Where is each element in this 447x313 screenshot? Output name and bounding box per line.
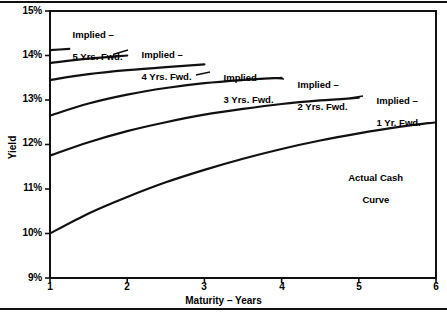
annotation-implied-5yr: Implied – 5 Yrs. Fwd. [62, 18, 123, 73]
yield-curve-figure: 15% 14% 13% 12% 11% 10% 9% 1 2 3 4 5 6 Y… [0, 0, 447, 313]
y-axis-title: Yield [7, 128, 18, 168]
x-axis-title: Maturity – Years [0, 295, 447, 306]
xtick-label-2: 2 [117, 281, 137, 292]
xtick-label-4: 4 [272, 281, 292, 292]
ytick-label-11: 11% [8, 182, 42, 193]
annotation-implied-1yr-line1: Implied – [377, 95, 418, 106]
annotation-implied-3yr: Implied – 3 Yrs. Fwd. [213, 61, 274, 116]
leader-line-1 [196, 72, 210, 75]
leader-line-2 [272, 78, 284, 79]
annotation-implied-2yr-line1: Implied – [298, 79, 339, 90]
annotation-implied-5yr-line2: 5 Yrs. Fwd. [73, 51, 123, 62]
xtick-label-1: 1 [40, 281, 60, 292]
ytick-label-10: 10% [8, 227, 42, 238]
ytick-label-9: 9% [8, 272, 42, 283]
annotation-implied-4yr: Implied – 4 Yrs. Fwd. [131, 38, 192, 93]
annotation-implied-4yr-line1: Implied – [142, 49, 183, 60]
xtick-label-3: 3 [194, 281, 214, 292]
leader-line-3 [350, 96, 363, 98]
xtick-label-5: 5 [349, 281, 369, 292]
ytick-label-15: 15% [8, 5, 42, 16]
annotation-implied-4yr-line2: 4 Yrs. Fwd. [142, 71, 192, 82]
annotation-implied-2yr: Implied – 2 Yrs. Fwd. [287, 68, 348, 123]
annotation-implied-3yr-line2: 3 Yrs. Fwd. [224, 94, 274, 105]
xtick-label-6: 6 [426, 281, 446, 292]
annotation-implied-1yr-line2: 1 Yr. Fwd. [377, 117, 421, 128]
annotation-actual-cash-line1: Actual Cash [348, 172, 403, 183]
annotation-implied-5yr-line1: Implied – [73, 29, 114, 40]
annotation-actual-cash-curve: Actual Cash Curve [338, 161, 403, 216]
ytick-label-13: 13% [8, 93, 42, 104]
annotation-implied-1yr: Implied – 1 Yr. Fwd. [366, 84, 421, 139]
annotation-actual-cash-line2: Curve [362, 194, 389, 205]
annotation-implied-2yr-line2: 2 Yrs. Fwd. [298, 101, 348, 112]
ytick-label-14: 14% [8, 49, 42, 60]
annotation-implied-3yr-line1: Implied – [224, 72, 265, 83]
